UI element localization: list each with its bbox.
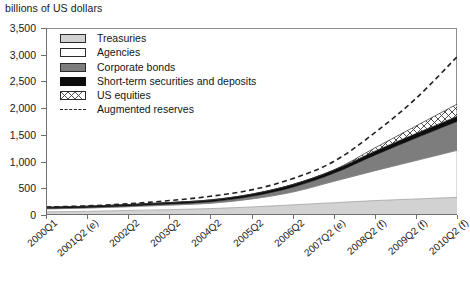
- y-tick-label: 3,500: [0, 22, 36, 34]
- legend-item-us-equities: US equities: [60, 88, 290, 102]
- y-tick: [41, 81, 46, 82]
- treasuries-swatch-icon: [60, 34, 86, 43]
- legend-item-corporate-bonds: Corporate bonds: [60, 60, 290, 74]
- y-tick-label: 2,500: [0, 75, 36, 87]
- legend-label: Agencies: [97, 45, 140, 59]
- legend-item-augmented-reserves: Augmented reserves: [60, 102, 290, 116]
- x-tick-label: 2005Q2: [231, 217, 265, 249]
- x-tick-label: 2008Q2 (f): [345, 217, 388, 257]
- y-axis-line: [46, 28, 47, 215]
- legend-item-agencies: Agencies: [60, 45, 290, 59]
- y-tick: [41, 135, 46, 136]
- y-tick: [41, 28, 46, 29]
- x-tick-label: 2004Q2: [190, 217, 224, 249]
- x-tick: [457, 215, 458, 219]
- y-tick-label: 1,000: [0, 156, 36, 168]
- y-tick-label: 2,000: [0, 102, 36, 114]
- x-tick-label: 2000Q1: [25, 217, 59, 249]
- agencies-swatch-icon: [60, 48, 86, 57]
- legend-item-treasuries: Treasuries: [60, 31, 290, 45]
- y-tick-label: 0: [0, 209, 36, 221]
- y-tick-label: 3,000: [0, 49, 36, 61]
- legend-label: Augmented reserves: [97, 102, 194, 116]
- short-term-swatch-icon: [60, 77, 86, 86]
- corporate-bonds-swatch-icon: [60, 63, 86, 72]
- x-tick-label: 2001Q2 (e): [55, 217, 100, 258]
- legend-label: Corporate bonds: [97, 60, 175, 74]
- x-axis-labels: 2000Q12001Q2 (e)2002Q22003Q22004Q22005Q2…: [46, 217, 457, 277]
- x-tick-label: 2010Q2 (f): [427, 217, 470, 257]
- legend-label: Treasuries: [97, 31, 146, 45]
- x-tick-label: 2007Q2 (e): [302, 217, 347, 258]
- x-tick-label: 2002Q2: [107, 217, 141, 249]
- legend-item-short-term: Short-term securities and deposits: [60, 74, 290, 88]
- x-tick-label: 2006Q2: [272, 217, 306, 249]
- y-axis-title: billions of US dollars: [5, 2, 102, 14]
- x-tick-label: 2003Q2: [148, 217, 182, 249]
- y-tick: [41, 55, 46, 56]
- us-equities-swatch-icon: [60, 91, 86, 100]
- legend-label: Short-term securities and deposits: [97, 74, 256, 88]
- chart-legend: Treasuries Agencies Corporate bonds Shor…: [60, 31, 290, 117]
- y-tick-label: 1,500: [0, 129, 36, 141]
- y-tick: [41, 162, 46, 163]
- y-tick-label: 500: [0, 182, 36, 194]
- legend-label: US equities: [97, 88, 151, 102]
- x-tick-label: 2009Q2 (f): [386, 217, 429, 257]
- augmented-reserves-dash-icon: [60, 109, 86, 110]
- y-tick: [41, 188, 46, 189]
- y-tick: [41, 108, 46, 109]
- y-axis-labels: 05001,0001,5002,0002,5003,0003,500: [0, 28, 44, 215]
